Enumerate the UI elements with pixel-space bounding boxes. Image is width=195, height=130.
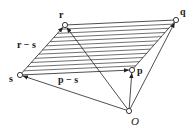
hatch-line (43, 45, 155, 50)
label-origin: O (131, 115, 139, 127)
hatch-line (28, 62, 140, 67)
label-p: p (137, 65, 143, 76)
hatch-line (46, 41, 157, 46)
hatch-line (61, 24, 172, 29)
hatch-line (35, 53, 147, 58)
parallelogram-diagram: r q s p O r − s p − s (0, 0, 195, 130)
hatch-line (58, 28, 169, 33)
vector-O-to-p (129, 73, 132, 108)
hatch-line (50, 37, 161, 42)
edge-r-q (68, 20, 174, 25)
hatch-line (24, 66, 136, 71)
label-s: s (9, 73, 13, 84)
shaded-parallelogram (24, 24, 173, 71)
point-r (62, 22, 67, 27)
point-p (129, 67, 134, 72)
point-origin (126, 108, 131, 113)
label-r: r (59, 9, 64, 20)
point-q (173, 17, 178, 22)
hatch-line (54, 33, 165, 38)
point-s (17, 72, 22, 77)
hatch-line (31, 58, 143, 63)
hatch-line (39, 49, 151, 54)
label-q: q (180, 6, 186, 17)
label-p-minus-s: p − s (58, 74, 78, 85)
label-r-minus-s: r − s (17, 39, 36, 50)
